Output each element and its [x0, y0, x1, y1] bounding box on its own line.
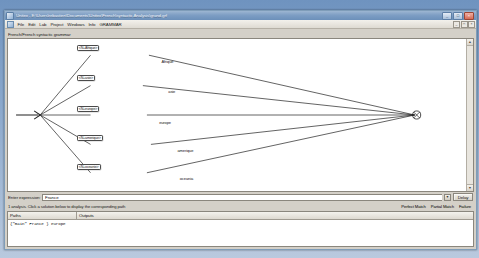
- mdi-close-button[interactable]: ×: [468, 21, 475, 28]
- grammar-title: French/French syntactic grammar: [6, 30, 475, 38]
- scroll-down-arrow[interactable]: ▼: [467, 184, 473, 191]
- desktop-background: Unitex - E:\Users\rebastien\Documents\Un…: [0, 0, 479, 258]
- menu-item-lab[interactable]: Lab: [38, 22, 48, 27]
- status-row: 1 analysis. Click a solution below to di…: [6, 202, 475, 211]
- chevron-down-icon[interactable]: ▼: [444, 194, 451, 201]
- menu-bar: File Edit Lab Project Windows Info GRAMM…: [5, 20, 476, 29]
- minimize-button[interactable]: _: [442, 12, 452, 20]
- menu-item-edit[interactable]: Edit: [27, 22, 37, 27]
- menu-item-info[interactable]: Info: [87, 22, 97, 27]
- expression-label: Enter expression:: [8, 195, 40, 200]
- table-body: {"main" France } europe: [8, 220, 473, 246]
- expression-bar: Enter expression: France ▼ Delay: [6, 192, 475, 202]
- column-header-paths[interactable]: Paths: [8, 212, 77, 219]
- unitex-icon: [6, 12, 14, 20]
- title-bar: Unitex - E:\Users\rebastien\Documents\Un…: [5, 11, 476, 20]
- graph-node-europe[interactable]: <N+europe>: [77, 106, 100, 112]
- mdi-window-controls: _ □ ×: [453, 21, 475, 28]
- cell-path: {"main" France } europe: [8, 222, 76, 226]
- table-header: Paths Outputs: [8, 212, 473, 220]
- match-legend: Perfect Match Partial Match Failure: [401, 204, 473, 209]
- graph-output-oceania: oceania: [180, 176, 193, 181]
- delay-button[interactable]: Delay: [453, 193, 473, 201]
- graph-output-asie: asie: [168, 89, 175, 94]
- menu-item-project[interactable]: Project: [49, 22, 65, 27]
- legend-perfect-match: Perfect Match: [401, 204, 426, 209]
- canvas-vertical-scrollbar[interactable]: ▲ ▼: [466, 39, 473, 191]
- window-controls: _ □ ×: [442, 12, 475, 20]
- menu-item-windows[interactable]: Windows: [66, 22, 86, 27]
- menu-item-file[interactable]: File: [16, 22, 26, 27]
- graph-node-asie[interactable]: <N+asie>: [77, 75, 95, 81]
- graph-output-europe: europe: [159, 120, 171, 125]
- mdi-restore-button[interactable]: □: [461, 21, 468, 28]
- status-message: 1 analysis. Click a solution below to di…: [8, 204, 397, 209]
- graph-node-oceanie[interactable]: <N+oceanie>: [77, 164, 101, 170]
- client-area: French/French syntactic grammar: [5, 29, 476, 249]
- graph-output-afrique: Afrique: [161, 59, 173, 64]
- legend-failure: Failure: [459, 204, 471, 209]
- expression-input[interactable]: France: [42, 194, 442, 201]
- document-icon: [7, 21, 14, 28]
- mdi-minimize-button[interactable]: _: [453, 21, 460, 28]
- application-window: Unitex - E:\Users\rebastien\Documents\Un…: [4, 10, 477, 250]
- column-header-outputs[interactable]: Outputs: [77, 212, 473, 219]
- scroll-up-arrow[interactable]: ▲: [467, 39, 473, 46]
- window-title: Unitex - E:\Users\rebastien\Documents\Un…: [16, 13, 440, 18]
- graph-output-amerique: amerique: [177, 148, 193, 153]
- graph-canvas[interactable]: <N+Afrique> <N+asie> <N+europe> <N+ameri…: [8, 39, 466, 191]
- graph-node-afrique[interactable]: <N+Afrique>: [77, 45, 100, 51]
- close-button[interactable]: ×: [464, 12, 474, 20]
- menu-item-grammar[interactable]: GRAMMAR: [98, 22, 123, 27]
- graph-node-amerique[interactable]: <N+amerique>: [77, 135, 103, 141]
- graph-panel: <N+Afrique> <N+asie> <N+europe> <N+ameri…: [7, 38, 474, 192]
- table-row[interactable]: {"main" France } europe: [8, 220, 473, 227]
- maximize-button[interactable]: □: [453, 12, 463, 20]
- legend-partial-match: Partial Match: [431, 204, 454, 209]
- initial-state-marker: [16, 111, 40, 119]
- results-table: Paths Outputs {"main" France } europe: [7, 211, 474, 247]
